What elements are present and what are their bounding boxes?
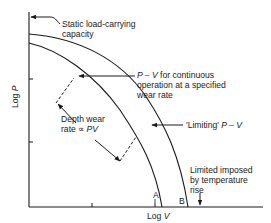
- static-load-leader: [31, 17, 60, 24]
- curve-b-label: B: [179, 196, 185, 206]
- static-load-label-line2: capacity: [62, 29, 94, 39]
- y-axis-label: Log P: [10, 86, 20, 108]
- continuous-label-line1: P – V for continuous: [137, 70, 214, 80]
- temperature-label-line3: rise: [190, 185, 204, 195]
- x-axis-label: Log V: [147, 211, 169, 221]
- continuous-label-line2: operation at a specified: [137, 80, 226, 90]
- temperature-label-line1: Limited imposed: [190, 165, 253, 175]
- temperature-label-line2: by temperature: [190, 175, 248, 185]
- y-axis-label-text: Log P: [10, 86, 20, 108]
- depth-arrow-down: [95, 140, 120, 161]
- depth-dash-top: [56, 78, 74, 103]
- depth-wear-prefix: rate ∝: [61, 124, 87, 134]
- x-axis-label-text: Log V: [147, 211, 169, 221]
- depth-wear-label-line1: Depth wear: [61, 114, 105, 124]
- curve-b: [29, 34, 188, 207]
- continuous-pv-var: P – V: [137, 70, 158, 80]
- wear-pv-diagram: [0, 0, 271, 223]
- static-load-label-line1: Static load-carrying: [62, 19, 136, 29]
- limiting-prefix: 'Limiting': [186, 120, 221, 130]
- limiting-var: P – V: [221, 120, 242, 130]
- curve-a-label: A: [153, 190, 159, 200]
- depth-wear-var: PV: [87, 124, 98, 134]
- depth-wear-label-line2: rate ∝ PV: [61, 124, 98, 134]
- depth-dash-bottom: [120, 137, 136, 161]
- continuous-label-line3: wear rate: [137, 90, 173, 100]
- limiting-label: 'Limiting' P – V: [186, 120, 242, 130]
- continuous-label-rest: for continuous: [158, 70, 214, 80]
